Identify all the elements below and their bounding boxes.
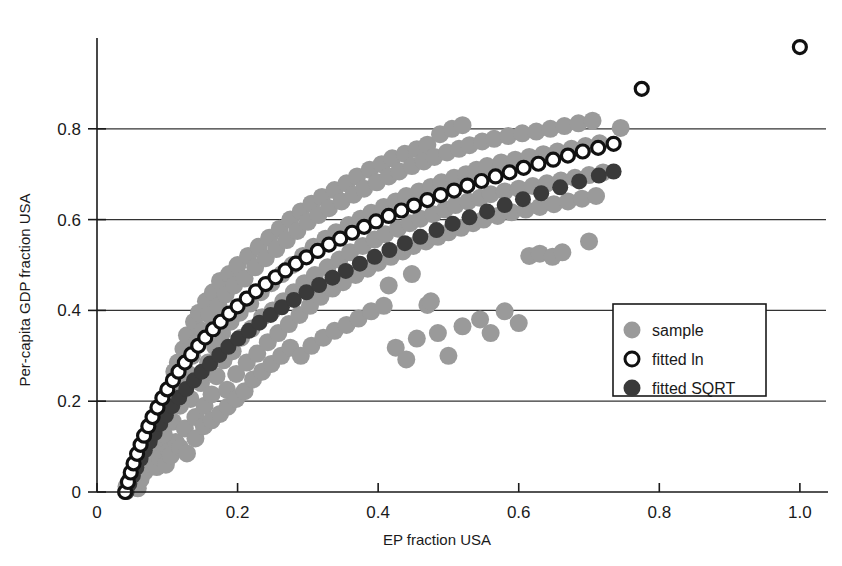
legend-marker (624, 380, 641, 397)
data-point (532, 157, 545, 170)
data-point (454, 317, 472, 335)
data-point (381, 242, 397, 258)
data-point (607, 137, 620, 150)
data-point (584, 112, 602, 130)
data-point (552, 179, 568, 195)
data-point (412, 229, 428, 245)
data-point (382, 209, 395, 222)
data-point (403, 265, 421, 283)
x-tick-label: 0.6 (507, 503, 531, 522)
y-tick-label: 0.6 (57, 211, 81, 230)
data-point (533, 185, 549, 201)
data-point (352, 256, 368, 272)
data-point (635, 82, 648, 95)
data-point (397, 350, 415, 368)
x-tick-label: 0 (92, 503, 101, 522)
data-point (515, 191, 531, 207)
data-point (580, 232, 598, 250)
data-point (497, 197, 513, 213)
y-tick-label: 0.2 (57, 392, 81, 411)
data-point (462, 209, 478, 225)
data-point (375, 297, 393, 315)
chart-legend: samplefitted lnfitted SQRT (613, 304, 766, 397)
data-point (571, 173, 587, 189)
data-point (793, 41, 806, 54)
data-point (454, 116, 472, 134)
data-point (408, 330, 426, 348)
data-point (496, 302, 514, 320)
data-point (517, 161, 530, 174)
scatter-chart: 00.20.40.60.81.0 00.20.40.60.8 EP fracti… (0, 0, 842, 566)
data-point (439, 347, 457, 365)
y-tick-label: 0 (72, 483, 81, 502)
data-point (576, 145, 589, 158)
data-point (428, 222, 444, 238)
data-point (422, 292, 440, 310)
data-point (395, 204, 408, 217)
data-point (547, 153, 560, 166)
data-point (380, 276, 398, 294)
legend-label: fitted ln (652, 351, 704, 368)
data-point (370, 215, 383, 228)
data-point (434, 189, 447, 202)
x-axis-title: EP fraction USA (383, 531, 491, 548)
y-axis-title: Per-capita GDP fraction USA (16, 193, 33, 386)
x-tick-label: 1.0 (788, 503, 812, 522)
data-point (561, 149, 574, 162)
y-tick-label: 0.8 (57, 120, 81, 139)
y-tick-label: 0.4 (57, 301, 81, 320)
data-point (482, 324, 500, 342)
data-point (591, 168, 607, 184)
chart-figure: 00.20.40.60.81.0 00.20.40.60.8 EP fracti… (0, 0, 842, 566)
data-point (553, 243, 571, 261)
data-point (475, 175, 488, 188)
legend-label: fitted SQRT (652, 380, 736, 397)
legend-marker (624, 322, 641, 339)
data-point (503, 166, 516, 179)
data-point (397, 235, 413, 251)
data-point (479, 203, 495, 219)
x-tick-label: 0.2 (226, 503, 250, 522)
data-point (592, 141, 605, 154)
data-point (587, 187, 605, 205)
data-point (461, 179, 474, 192)
data-point (367, 249, 383, 265)
legend-label: sample (652, 322, 704, 339)
data-point (448, 184, 461, 197)
data-point (338, 263, 354, 279)
data-point (421, 194, 434, 207)
data-point (489, 170, 502, 183)
data-point (445, 216, 461, 232)
legend-marker (625, 352, 639, 366)
data-point (408, 199, 421, 212)
x-tick-label: 0.8 (647, 503, 671, 522)
data-point (612, 119, 630, 137)
data-point (606, 163, 622, 179)
data-point (510, 314, 528, 332)
data-point (429, 324, 447, 342)
data-point (203, 385, 221, 403)
x-tick-label: 0.4 (366, 503, 390, 522)
